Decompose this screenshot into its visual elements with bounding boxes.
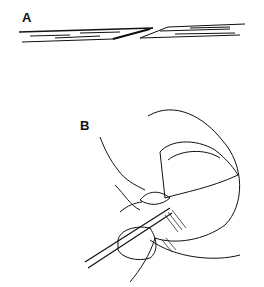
illustration (0, 0, 264, 287)
panel-b-drawing (85, 110, 240, 282)
panel-a-drawing (19, 24, 245, 42)
